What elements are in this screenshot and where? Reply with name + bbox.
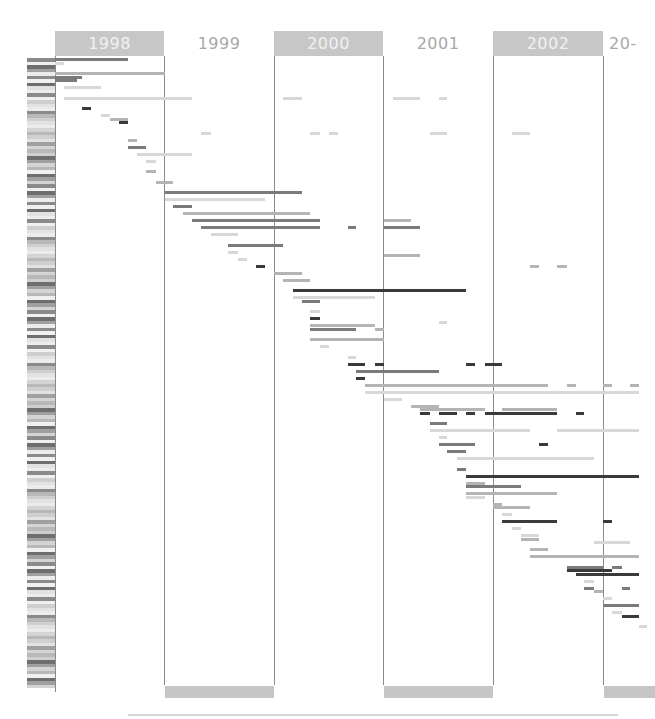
- timeline-bar: [128, 146, 146, 149]
- timeline-bar: [539, 443, 548, 446]
- timeline-bar: [192, 219, 320, 222]
- timeline-bar: [622, 587, 631, 590]
- timeline-bar: [310, 317, 320, 320]
- timeline-bar: [201, 226, 320, 229]
- timeline-bar: [310, 310, 320, 313]
- timeline-bar: [466, 363, 475, 366]
- timeline-bar: [485, 363, 503, 366]
- timeline-bar: [119, 121, 129, 124]
- timeline-bar: [348, 363, 366, 366]
- timeline-bar: [384, 219, 411, 222]
- timeline-bar: [576, 412, 585, 415]
- timeline-bar: [375, 328, 384, 331]
- timeline-bar: [521, 538, 540, 541]
- timeline-bar: [466, 496, 485, 499]
- timeline-bar: [439, 443, 475, 446]
- timeline-bar: [348, 356, 357, 359]
- timeline-bar: [356, 377, 365, 380]
- timeline-bar: [293, 289, 466, 292]
- timeline-bar: [101, 114, 110, 117]
- timeline-bar: [238, 258, 247, 261]
- timeline-bar: [584, 580, 594, 583]
- timeline-bar: [612, 566, 622, 569]
- timeline-bar: [639, 625, 647, 628]
- timeline-bar: [630, 384, 639, 387]
- timeline-bar: [329, 132, 338, 135]
- timeline-bar: [82, 107, 91, 110]
- timeline-bar: [567, 384, 576, 387]
- timeline-bar: [530, 548, 549, 551]
- timeline-bar: [584, 587, 594, 590]
- timeline-bar: [466, 475, 639, 478]
- timeline-bar: [310, 328, 356, 331]
- timeline-bar: [384, 254, 420, 257]
- bar-layer: [0, 0, 655, 719]
- timeline-bar: [576, 573, 640, 576]
- timeline-bar: [173, 205, 192, 208]
- timeline-bar: [384, 370, 439, 373]
- timeline-bar: [310, 132, 320, 135]
- timeline-bar: [512, 132, 530, 135]
- timeline-bar: [439, 97, 448, 100]
- timeline-bar: [256, 265, 266, 268]
- scrollbar-track[interactable]: [128, 714, 618, 716]
- timeline-bar: [165, 198, 266, 201]
- timeline-bar: [228, 244, 283, 247]
- timeline-bar: [320, 345, 329, 348]
- timeline-bar: [137, 153, 192, 156]
- timeline-bar: [594, 541, 630, 544]
- timeline-bar: [603, 604, 639, 607]
- timeline-bar: [201, 132, 211, 135]
- timeline-bar: [439, 321, 448, 324]
- timeline-bar: [365, 384, 548, 387]
- timeline-bar: [622, 615, 640, 618]
- timeline-bar: [66, 97, 192, 100]
- timeline-bar: [420, 412, 430, 415]
- timeline-bar: [557, 265, 567, 268]
- timeline-bar: [393, 97, 420, 100]
- timeline-bar: [557, 429, 639, 432]
- timeline-bar: [430, 422, 448, 425]
- timeline-bar: [603, 520, 612, 523]
- timeline-bar: [530, 555, 640, 558]
- timeline-bar: [302, 300, 321, 303]
- timeline-bar: [375, 363, 384, 366]
- timeline-bar: [485, 412, 557, 415]
- timeline-bar: [502, 520, 557, 523]
- timeline-bar: [384, 398, 403, 401]
- timeline-bar: [430, 132, 448, 135]
- timeline-bar: [356, 370, 383, 373]
- timeline-bar: [439, 412, 458, 415]
- timeline-bar: [594, 590, 603, 593]
- timeline-bar: [283, 97, 302, 100]
- timeline-bar: [55, 58, 128, 61]
- timeline-bar: [430, 429, 530, 432]
- timeline-bar: [612, 611, 622, 614]
- timeline-bar: [457, 457, 594, 460]
- timeline-bar: [439, 436, 448, 439]
- timeline-bar: [365, 391, 639, 394]
- timeline-bar: [447, 450, 466, 453]
- timeline-bar: [165, 191, 302, 194]
- timeline-bar: [512, 527, 521, 530]
- timeline-bar: [603, 597, 612, 600]
- timeline-bar: [274, 272, 301, 275]
- timeline-bar: [457, 468, 466, 471]
- timeline-bar: [384, 226, 420, 229]
- timeline-bar: [493, 506, 529, 509]
- timeline-bar: [466, 412, 475, 415]
- timeline-bar: [348, 226, 357, 229]
- timeline-bar: [211, 233, 238, 236]
- timeline-bar: [603, 384, 612, 387]
- timeline-bar: [310, 338, 383, 341]
- timeline-bar: [128, 139, 137, 142]
- timeline-bar: [156, 181, 174, 184]
- timeline-bar: [55, 79, 77, 82]
- timeline-bar: [283, 279, 310, 282]
- timeline-bar: [146, 160, 156, 163]
- timeline-bar: [530, 265, 540, 268]
- timeline-bar: [466, 485, 521, 488]
- timeline-bar: [64, 86, 101, 89]
- timeline-bar: [183, 212, 310, 215]
- timeline-bar: [502, 513, 512, 516]
